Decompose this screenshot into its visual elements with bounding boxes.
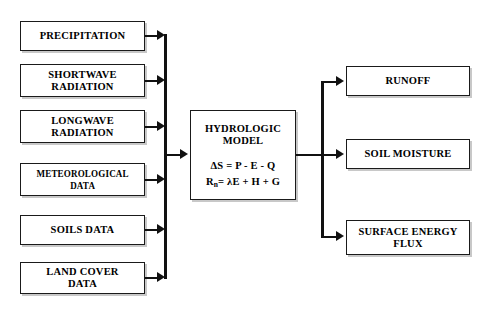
- input-box-longwave-radiation: LONGWAVERADIATION: [20, 110, 145, 143]
- hydrologic-model-diagram: PRECIPITATION SHORTWAVERADIATION LONGWAV…: [0, 0, 484, 310]
- model-equation-mass-balance: ΔS = P - E - Q: [211, 160, 276, 172]
- output-box-soil-moisture: SOIL MOISTURE: [346, 139, 470, 169]
- arrowhead-soil-moisture: [336, 149, 344, 159]
- input-label-longwave-radiation: LONGWAVERADIATION: [48, 115, 117, 139]
- arrowhead-surface-energy-flux: [336, 231, 344, 241]
- output-label-runoff: RUNOFF: [383, 75, 434, 87]
- input-box-soils-data: SOILS DATA: [20, 215, 145, 245]
- input-label-soils-data: SOILS DATA: [48, 224, 118, 236]
- output-box-surface-energy-flux: SURFACE ENERGYFLUX: [346, 220, 470, 255]
- output-label-surface-energy-flux: SURFACE ENERGYFLUX: [355, 226, 460, 250]
- output-label-soil-moisture: SOIL MOISTURE: [362, 148, 455, 160]
- input-label-shortwave-radiation: SHORTWAVERADIATION: [45, 69, 119, 93]
- input-label-precipitation: PRECIPITATION: [37, 30, 129, 42]
- input-box-land-cover-data: LAND COVERDATA: [20, 262, 145, 294]
- hydrologic-model-box: HYDROLOGICMODEL ΔS = P - E - Q Rn= λE + …: [190, 110, 296, 200]
- input-box-meteorological-data: METEOROLOGICALDATA: [20, 163, 145, 196]
- output-distribution-bus: [321, 81, 324, 237]
- model-equation-energy-balance: Rn= λE + H + G: [206, 176, 280, 188]
- energy-eq-subscript: n: [214, 180, 218, 189]
- energy-eq-rest: = λE + H + G: [218, 176, 280, 187]
- energy-eq-lead: R: [206, 176, 214, 187]
- connector-model-to-output-bus: [296, 154, 324, 157]
- input-box-precipitation: PRECIPITATION: [20, 21, 145, 51]
- arrowhead-model-input: [180, 149, 188, 159]
- input-box-shortwave-radiation: SHORTWAVERADIATION: [20, 64, 145, 97]
- input-label-meteorological-data: METEOROLOGICALDATA: [34, 168, 131, 192]
- output-box-runoff: RUNOFF: [346, 66, 470, 96]
- model-title: HYDROLOGICMODEL: [205, 123, 281, 147]
- input-collector-bus: [164, 34, 167, 279]
- arrowhead-runoff: [336, 76, 344, 86]
- input-label-land-cover-data: LAND COVERDATA: [43, 266, 121, 290]
